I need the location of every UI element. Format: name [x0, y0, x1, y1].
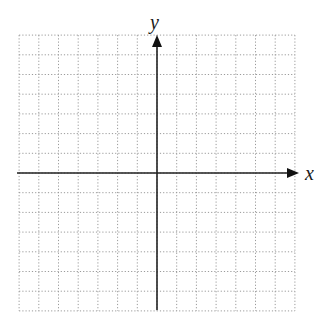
x-axis-arrowhead-icon [287, 168, 299, 178]
coordinate-plane: y x [0, 0, 326, 314]
y-axis-label: y [148, 11, 159, 34]
x-axis [17, 168, 299, 178]
y-axis-arrowhead-icon [152, 35, 162, 47]
x-axis-label: x [304, 162, 314, 184]
